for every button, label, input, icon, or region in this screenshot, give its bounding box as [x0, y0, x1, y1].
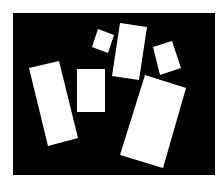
middle-rectangle: [77, 69, 105, 112]
image-stage: [0, 0, 224, 184]
shapes-scene: [0, 0, 224, 184]
